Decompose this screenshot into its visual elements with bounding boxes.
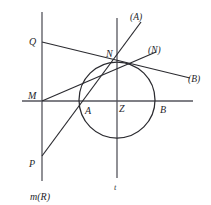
- geometry-figure: Q M P N Z A B t m(R) (A) (N) (B): [0, 0, 211, 205]
- label-M: M: [27, 90, 37, 101]
- label-B: B: [160, 104, 166, 115]
- label-A: A: [84, 105, 92, 116]
- canvas-background: [0, 0, 211, 205]
- label-Z: Z: [119, 103, 125, 114]
- label-line-A: (A): [130, 12, 142, 23]
- label-Q: Q: [29, 36, 37, 47]
- label-N: N: [105, 48, 114, 59]
- label-line-N: (N): [148, 45, 161, 56]
- label-P: P: [28, 158, 35, 169]
- diagram-canvas: Q M P N Z A B t m(R) (A) (N) (B): [0, 0, 211, 205]
- label-line-B: (B): [188, 74, 200, 85]
- label-mR: m(R): [30, 191, 51, 203]
